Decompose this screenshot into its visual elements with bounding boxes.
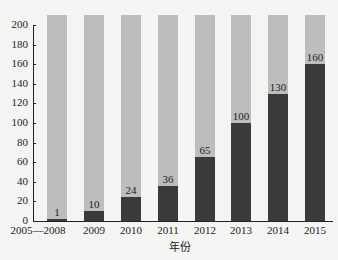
y-tick-label: 140 (2, 78, 28, 89)
x-tick-label: 2009 (79, 225, 109, 236)
y-tick-label: 120 (2, 97, 28, 108)
data-bar (268, 94, 288, 221)
value-label: 1 (42, 207, 72, 218)
value-label: 65 (190, 145, 220, 156)
y-tick-mark (33, 182, 36, 183)
x-tick-label: 2012 (190, 225, 220, 236)
x-tick-label: 2013 (226, 225, 256, 236)
value-label: 130 (263, 82, 293, 93)
y-tick-label: 160 (2, 58, 28, 69)
data-bar (47, 219, 67, 221)
background-bar (47, 15, 67, 221)
value-label: 36 (153, 174, 183, 185)
y-tick-label: 40 (2, 176, 28, 187)
y-tick-label: 180 (2, 39, 28, 50)
y-tick-label: 60 (2, 156, 28, 167)
y-tick-mark (33, 25, 36, 26)
y-tick-mark (33, 162, 36, 163)
x-tick-label: 2010 (116, 225, 146, 236)
data-bar (121, 197, 141, 221)
y-tick-mark (33, 84, 36, 85)
value-label: 10 (79, 199, 109, 210)
y-tick-label: 20 (2, 195, 28, 206)
value-label: 160 (300, 52, 330, 63)
bar-chart: 020406080100120140160180200 12005—200810… (0, 0, 338, 260)
y-tick-mark (33, 103, 36, 104)
x-tick-label: 2011 (153, 225, 183, 236)
y-tick-mark (33, 123, 36, 124)
y-tick-label: 100 (2, 117, 28, 128)
y-tick-label: 200 (2, 19, 28, 30)
x-tick-label: 2015 (300, 225, 330, 236)
data-bar (84, 211, 104, 221)
data-bar (158, 186, 178, 221)
y-tick-mark (33, 64, 36, 65)
x-axis-title: 年份 (160, 238, 200, 254)
x-tick-label: 2005—2008 (3, 225, 73, 236)
value-label: 24 (116, 185, 146, 196)
x-axis (33, 221, 333, 222)
data-bar (305, 64, 325, 221)
y-tick-mark (33, 45, 36, 46)
y-tick-mark (33, 221, 36, 222)
y-tick-mark (33, 143, 36, 144)
value-label: 100 (226, 111, 256, 122)
data-bar (195, 157, 215, 221)
background-bar (84, 15, 104, 221)
y-tick-mark (33, 201, 36, 202)
y-tick-label: 80 (2, 137, 28, 148)
data-bar (231, 123, 251, 221)
x-tick-label: 2014 (263, 225, 293, 236)
